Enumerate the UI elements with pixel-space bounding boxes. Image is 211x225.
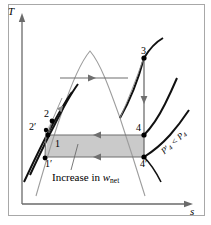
isobar-high-pressure-left — [30, 84, 78, 175]
isobar-p4-right — [144, 78, 177, 135]
caption-variable: w — [103, 171, 110, 183]
state-label-3: 3 — [141, 46, 146, 56]
y-axis-arrow — [19, 13, 25, 22]
state-label-1prime: 1′ — [45, 159, 52, 169]
process-line-superheat — [120, 60, 143, 118]
state-point-3 — [141, 55, 146, 60]
state-point-2 — [50, 119, 55, 124]
state-point-4 — [141, 132, 146, 137]
process-arrow-2-3 — [88, 75, 96, 82]
caption-increase-in-wnet: Increase in wnet — [52, 172, 119, 184]
state-label-2prime: 2′ — [29, 122, 36, 132]
caption-subscript: net — [110, 176, 119, 185]
state-point-2prime — [44, 128, 48, 132]
state-label-1: 1 — [55, 139, 60, 149]
caption-text: Increase in — [52, 171, 103, 183]
ts-diagram-figure: T s 2 2′ 1 1′ 3 4 4′ Increase in wnet P′… — [0, 0, 211, 225]
state-point-1 — [46, 133, 51, 138]
state-label-4prime: 4′ — [140, 159, 147, 169]
y-axis-label: T — [8, 6, 14, 17]
state-label-2: 2 — [44, 109, 49, 119]
process-arrow-3-4 — [141, 96, 148, 104]
state-label-4: 4 — [136, 123, 141, 133]
ts-diagram-canvas — [0, 0, 211, 225]
x-axis-label: s — [190, 206, 194, 217]
